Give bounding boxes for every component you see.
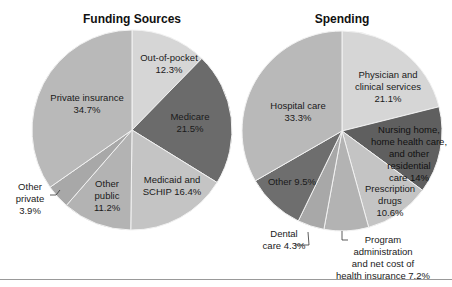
label-private-insurance: Private insurance34.7% — [45, 92, 129, 116]
label-nursing: Nursing home,home health care,and otherr… — [366, 124, 452, 184]
label-other: Other 9.5% — [262, 176, 322, 188]
label-other-public: Otherpublic11.2% — [82, 178, 132, 214]
label-hospital: Hospital care33.3% — [258, 100, 338, 124]
label-program: Programadministrationand net cost ofheal… — [333, 234, 433, 282]
label-medicaid: Medicaid andSCHIP 16.4% — [132, 174, 212, 198]
label-out-of-pocket: Out-of-pocket12.3% — [133, 52, 205, 76]
label-dental: Dentalcare 4.3% — [262, 228, 306, 252]
bottom-rule — [0, 279, 452, 280]
label-prescription: Prescriptiondrugs10.6% — [355, 183, 425, 219]
label-medicare: Medicare21.5% — [150, 111, 230, 135]
label-physician: Physician andclinical services21.1% — [345, 69, 431, 105]
label-other-private: Otherprivate3.9% — [8, 181, 52, 217]
